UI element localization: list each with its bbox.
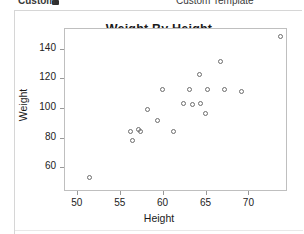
y-axis-tick — [60, 78, 64, 79]
y-axis-tick — [60, 138, 64, 139]
scatter-point — [190, 102, 195, 107]
y-axis-tick-label: 140 — [24, 42, 56, 53]
x-axis-tick-label: 60 — [148, 197, 178, 208]
y-axis-tick-label: 60 — [24, 160, 56, 171]
x-axis-tick-label: 55 — [105, 197, 135, 208]
toolbar-right-label: Custom Template — [176, 0, 254, 6]
plot-area — [64, 28, 287, 191]
scatter-point — [130, 138, 135, 143]
x-axis-tick-label: 70 — [233, 197, 263, 208]
scatter-point — [278, 34, 283, 39]
scatter-point — [145, 107, 150, 112]
scatter-point — [197, 72, 202, 77]
y-axis-tick — [60, 49, 64, 50]
scatter-point — [128, 129, 133, 134]
toolbar-left-label: Custom — [18, 0, 55, 6]
scatter-point — [218, 59, 223, 64]
y-axis-tick — [60, 167, 64, 168]
scatter-point — [87, 175, 92, 180]
x-axis-tick — [77, 191, 78, 195]
scatter-point — [171, 129, 176, 134]
x-axis-tick-label: 50 — [62, 197, 92, 208]
chart-card: Weight By Height 50556065706080100120140… — [14, 10, 302, 234]
x-axis-tick — [248, 191, 249, 195]
scatter-point — [160, 87, 165, 92]
x-axis-title: Height — [15, 212, 303, 224]
y-axis-title: Weight — [17, 75, 29, 135]
y-axis-tick — [60, 108, 64, 109]
app-chrome-strip: Custom Custom Template — [0, 0, 304, 9]
x-axis-tick — [206, 191, 207, 195]
x-axis-tick — [163, 191, 164, 195]
scatter-point — [181, 101, 186, 106]
x-axis-tick — [120, 191, 121, 195]
x-axis-tick-label: 65 — [191, 197, 221, 208]
scatter-point — [203, 111, 208, 116]
card-bottom-divider — [15, 230, 303, 231]
scatter-point — [198, 101, 203, 106]
scatter-point — [138, 129, 143, 134]
